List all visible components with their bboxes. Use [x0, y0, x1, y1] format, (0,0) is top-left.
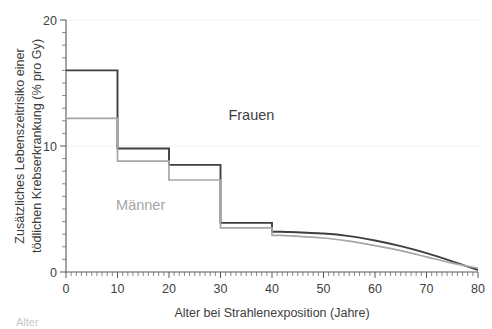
x-tick-label: 40	[265, 282, 279, 296]
x-tick-label: 80	[471, 282, 485, 296]
minor-ticks-group	[62, 33, 473, 276]
x-tick-label: 30	[214, 282, 228, 296]
y-axis-title-line2: tödlichen Krebserkrankung (% pro Gy)	[30, 39, 44, 253]
x-tick-label: 20	[162, 282, 176, 296]
y-tick-label: 10	[43, 140, 57, 154]
series-labels-group: FrauenMänner	[116, 107, 274, 214]
x-tick-label: 0	[63, 282, 70, 296]
series-label-männer: Männer	[116, 197, 165, 213]
risk-by-age-chart: 0102001020304050607080 FrauenMänner Alte…	[0, 0, 492, 329]
caption-text: Alter	[16, 316, 39, 328]
x-tick-label: 10	[111, 282, 125, 296]
series-line-frauen	[66, 70, 478, 270]
y-tick-label: 20	[43, 14, 57, 28]
series-label-frauen: Frauen	[228, 107, 274, 123]
caption-strip: Alter	[0, 315, 492, 329]
series-group	[66, 70, 478, 270]
gridlines-group	[66, 20, 478, 146]
series-line-männer	[66, 118, 478, 268]
tick-labels-group: 0102001020304050607080	[43, 14, 485, 297]
x-tick-label: 70	[420, 282, 434, 296]
chart-container: 0102001020304050607080 FrauenMänner Alte…	[0, 0, 492, 329]
x-tick-label: 50	[317, 282, 331, 296]
y-tick-label: 0	[50, 266, 57, 280]
y-axis-title-line1: Zusätzliches Lebenszeitrisiko einer	[13, 48, 27, 243]
x-tick-label: 60	[368, 282, 382, 296]
